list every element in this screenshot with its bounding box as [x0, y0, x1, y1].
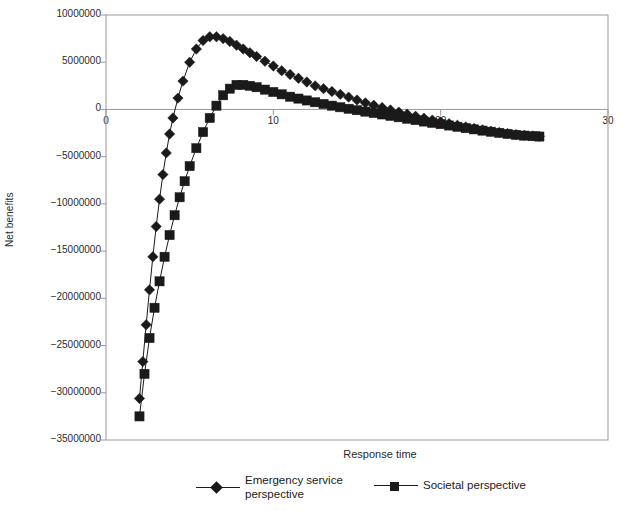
chart-figure: Net benefits 1000000050000000−5000000−10… [0, 0, 629, 511]
diamond-marker-icon [196, 482, 240, 494]
y-axis-title: Net benefits [4, 157, 15, 247]
x-tick-label: 20 [421, 115, 461, 126]
y-tick-label: −15000000 [21, 244, 101, 255]
plot-frame [106, 15, 608, 440]
legend-item-emergency-service[interactable]: Emergency service perspective [196, 474, 343, 501]
legend-label-line1: Emergency service [245, 474, 343, 486]
y-tick-label: 5000000 [21, 55, 101, 66]
x-tick-label: 0 [86, 115, 126, 126]
data-series-layer [134, 32, 544, 421]
y-tick-label: 0 [21, 102, 101, 113]
y-tick-label: 10000000 [21, 8, 101, 19]
legend-item-societal[interactable]: Societal perspective [374, 479, 526, 493]
series-emergency-service [134, 32, 544, 404]
y-tick-label: −35000000 [21, 433, 101, 444]
square-marker-icon [374, 480, 418, 492]
series-societal [135, 80, 544, 421]
y-tick-label: −5000000 [21, 150, 101, 161]
x-tick-label: 10 [253, 115, 293, 126]
x-axis-title: Response time [260, 448, 500, 460]
y-tick-label: −10000000 [21, 197, 101, 208]
y-tick-label: −20000000 [21, 291, 101, 302]
legend-label-emergency-service: Emergency service perspective [245, 474, 343, 501]
y-tick-label: −25000000 [21, 339, 101, 350]
legend-label-line2: perspective [245, 488, 304, 500]
legend-label-societal: Societal perspective [423, 479, 526, 493]
axis-ticks [100, 15, 608, 440]
chart-legend: Emergency service perspective Societal p… [0, 474, 629, 510]
y-tick-label: −30000000 [21, 386, 101, 397]
x-tick-label: 30 [588, 115, 628, 126]
